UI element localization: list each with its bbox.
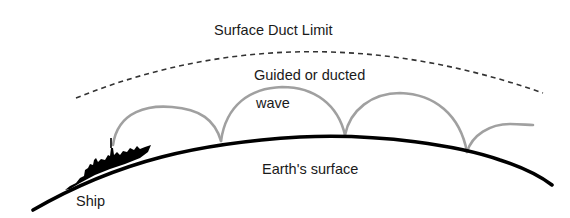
ducting-diagram: Surface Duct Limit Guided or ducted wave… <box>0 0 570 218</box>
surface-duct-limit-label: Surface Duct Limit <box>214 23 332 38</box>
earth-surface-label: Earth's surface <box>262 162 358 177</box>
guided-wave-label-line2: wave <box>256 96 290 111</box>
ship-label: Ship <box>76 194 105 209</box>
guided-wave-path <box>113 87 533 152</box>
ship-icon <box>65 145 151 190</box>
guided-wave-label-line1: Guided or ducted <box>254 68 365 83</box>
